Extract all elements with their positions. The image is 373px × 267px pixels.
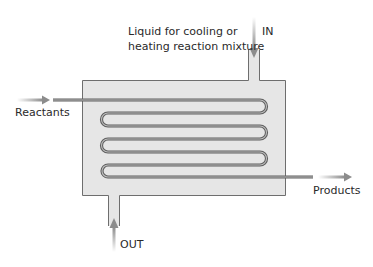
products-arrow-icon <box>318 173 352 182</box>
reactants-arrow-icon <box>17 96 50 105</box>
products-label: Products <box>313 184 361 197</box>
coolant-label-line1: Liquid for cooling or <box>128 25 238 38</box>
reactants-label: Reactants <box>15 106 70 119</box>
outlet-label: OUT <box>120 238 144 251</box>
reactor-diagram: Liquid for cooling or heating reaction m… <box>0 0 373 267</box>
inlet-label: IN <box>262 25 273 38</box>
coolant-label-line2: heating reaction mixture <box>128 40 265 53</box>
